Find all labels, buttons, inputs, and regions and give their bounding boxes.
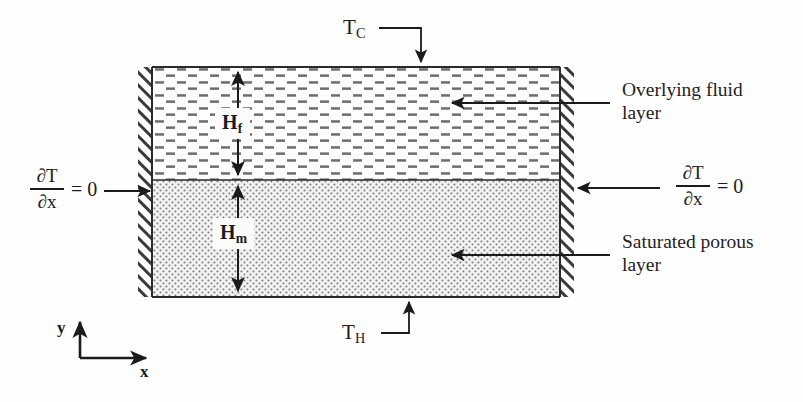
right-boundary-condition: ∂T ∂x = 0	[676, 162, 743, 211]
left-boundary-condition: ∂T ∂x = 0	[30, 165, 97, 214]
x-axis-label: x	[140, 362, 149, 382]
coordinate-axes	[80, 322, 146, 358]
porous-layer-annotation-line2: layer	[622, 253, 754, 276]
porous-layer-annotation-line1: Saturated porous	[622, 230, 754, 253]
hot-temperature-label: TH	[342, 320, 366, 345]
y-axis-label: y	[57, 318, 66, 338]
th-leader-line	[381, 302, 409, 333]
figure-canvas: TC TH Hf Hm ∂T ∂x = 0 ∂T ∂x = 0 Overlyin…	[0, 0, 803, 402]
porous-height-label: Hm	[213, 218, 254, 249]
left-wall-hatching	[138, 67, 152, 297]
left-bc-fraction: ∂T ∂x	[30, 165, 64, 214]
fluid-height-label: Hf	[215, 108, 250, 139]
porous-layer-annotation: Saturated porous layer	[622, 230, 754, 276]
fluid-layer-annotation-line2: layer	[622, 101, 743, 124]
cold-temperature-label: TC	[343, 15, 366, 40]
fluid-layer-annotation: Overlying fluid layer	[622, 78, 743, 124]
fluid-layer-region	[152, 67, 560, 180]
fluid-layer-annotation-line1: Overlying fluid	[622, 78, 743, 101]
tc-leader-line	[379, 28, 421, 62]
right-bc-fraction: ∂T ∂x	[676, 162, 710, 211]
right-wall-hatching	[560, 67, 574, 297]
